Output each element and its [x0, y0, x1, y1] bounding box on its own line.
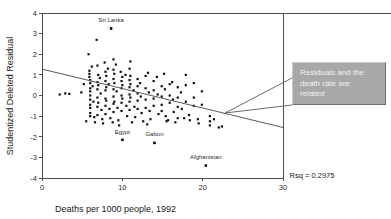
point-label: Sri Lanka: [98, 17, 124, 23]
data-point: [89, 82, 91, 84]
data-point: [149, 118, 151, 120]
data-point: [96, 39, 98, 41]
data-point: [112, 78, 114, 80]
data-point: [97, 74, 99, 76]
data-point: [209, 115, 211, 117]
data-point: [129, 96, 131, 98]
data-point: [141, 112, 143, 114]
data-point: [180, 91, 182, 93]
data-point: [209, 120, 211, 122]
point-label: Afghanistan: [190, 154, 222, 160]
data-point: [91, 66, 93, 68]
data-point: [102, 122, 104, 124]
data-point: [93, 116, 95, 118]
data-point: [109, 117, 111, 119]
data-point: [213, 118, 215, 120]
data-point: [139, 82, 141, 84]
data-point: [88, 73, 90, 75]
data-point: [100, 92, 102, 94]
data-point: [140, 95, 142, 97]
data-point: [120, 110, 122, 112]
data-point: [104, 80, 106, 82]
data-point: [134, 116, 136, 118]
data-point: [167, 119, 169, 121]
data-point: [104, 89, 106, 91]
data-point: [97, 84, 99, 86]
y-tick-label: 0: [33, 91, 37, 100]
data-point: [112, 88, 114, 90]
data-point: [112, 111, 114, 113]
data-point: [96, 106, 98, 108]
data-point: [88, 76, 90, 78]
y-tick-label: 1: [33, 71, 37, 80]
regression-line-group: [42, 69, 283, 127]
data-point: [169, 94, 171, 96]
data-point: [157, 113, 159, 115]
data-point: [131, 121, 133, 123]
data-point: [89, 99, 91, 101]
data-point: [113, 101, 115, 103]
data-point: [89, 87, 91, 89]
data-point: [112, 95, 114, 97]
data-point: [149, 110, 151, 112]
scatter-plot-figure: 43210-1-2-3-40102030 Sri LankaEgyptGabon…: [0, 0, 391, 219]
data-point: [105, 100, 107, 102]
data-point: [136, 108, 138, 110]
data-point: [100, 109, 102, 111]
data-point: [153, 97, 155, 99]
data-point: [104, 113, 106, 115]
data-point: [112, 58, 114, 60]
data-point: [92, 85, 94, 87]
data-point: [145, 99, 147, 101]
data-point: [96, 88, 98, 90]
data-point: [145, 107, 147, 109]
y-tick-label: -4: [30, 174, 37, 183]
data-point: [198, 122, 200, 124]
data-point: [201, 90, 203, 92]
data-point: [120, 80, 122, 82]
data-point: [97, 102, 99, 104]
data-point: [177, 106, 179, 108]
data-point: [128, 86, 130, 88]
y-tick-label: -2: [30, 133, 37, 142]
data-point: [183, 117, 185, 119]
data-point: [96, 96, 98, 98]
data-point: [120, 71, 122, 73]
rsq-label: Rsq = 0.2975: [290, 171, 335, 180]
data-point: [165, 115, 167, 117]
highlighted-data-point: [121, 139, 123, 141]
data-point: [209, 124, 211, 126]
data-point: [193, 96, 195, 98]
data-point: [181, 108, 183, 110]
y-tick-label: 4: [33, 9, 37, 18]
data-point: [147, 72, 149, 74]
regression-line: [42, 69, 283, 127]
data-point: [185, 101, 187, 103]
x-tick-label: 0: [40, 183, 44, 192]
data-point: [201, 104, 203, 106]
data-point: [64, 92, 66, 94]
data-point: [161, 110, 163, 112]
point-label: Egypt: [115, 129, 131, 135]
callout-box: Residuals and the death rate are related: [292, 62, 386, 105]
data-point: [120, 102, 122, 104]
data-point: [121, 84, 123, 86]
point-label: Gabon: [145, 131, 163, 137]
data-point: [108, 108, 110, 110]
data-points-group: [59, 27, 223, 166]
highlighted-data-point: [153, 142, 155, 144]
data-point: [89, 115, 91, 117]
data-point: [104, 71, 106, 73]
data-point: [85, 120, 87, 122]
data-point: [146, 123, 148, 125]
data-point: [125, 105, 127, 107]
data-point: [136, 85, 138, 87]
data-point: [68, 93, 70, 95]
x-tick-label: 30: [279, 183, 287, 192]
data-point: [89, 90, 91, 92]
data-point: [185, 84, 187, 86]
data-point: [112, 69, 114, 71]
data-point: [169, 83, 171, 85]
data-point: [156, 76, 158, 78]
data-point: [128, 68, 130, 70]
